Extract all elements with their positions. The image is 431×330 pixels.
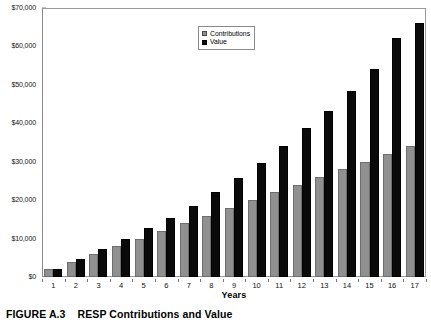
bar-value bbox=[144, 228, 153, 277]
bar-value bbox=[166, 218, 175, 277]
contributions-swatch-icon bbox=[202, 31, 207, 36]
bar-value bbox=[392, 38, 401, 277]
legend-item-contributions: Contributions bbox=[202, 30, 250, 38]
x-tick-label: 16 bbox=[388, 281, 396, 290]
figure-number: FIGURE A.3 bbox=[6, 308, 66, 320]
bar-group bbox=[383, 8, 401, 277]
bar-contributions bbox=[157, 231, 166, 277]
bar-value bbox=[257, 163, 266, 277]
x-tick-mark bbox=[155, 279, 156, 282]
x-tick-mark bbox=[268, 279, 269, 282]
x-tick-label: 15 bbox=[365, 281, 373, 290]
bar-group bbox=[67, 8, 85, 277]
x-tick-label: 1 bbox=[51, 281, 55, 290]
bar-group bbox=[157, 8, 175, 277]
x-tick-label: 6 bbox=[164, 281, 168, 290]
x-tick-label: 4 bbox=[119, 281, 123, 290]
x-tick-label: 10 bbox=[252, 281, 260, 290]
bar-contributions bbox=[360, 162, 369, 277]
x-tick-mark bbox=[403, 279, 404, 282]
y-axis: $0$10,000$20,000$30,000$40,000$50,000$60… bbox=[0, 0, 42, 285]
bar-value bbox=[76, 259, 85, 277]
bar-group bbox=[135, 8, 153, 277]
figure-caption: FIGURE A.3RESP Contributions and Value bbox=[6, 308, 232, 320]
x-tick-label: 2 bbox=[74, 281, 78, 290]
x-tick-label: 12 bbox=[298, 281, 306, 290]
y-tick-label: $20,000 bbox=[11, 196, 36, 204]
bar-contributions bbox=[293, 185, 302, 277]
x-tick-label: 13 bbox=[320, 281, 328, 290]
x-tick-mark bbox=[290, 279, 291, 282]
x-tick-mark bbox=[336, 279, 337, 282]
x-tick-label: 7 bbox=[187, 281, 191, 290]
x-tick-label: 14 bbox=[343, 281, 351, 290]
bar-contributions bbox=[44, 269, 53, 277]
legend-label-contributions: Contributions bbox=[210, 30, 250, 38]
y-tick-label: $0 bbox=[28, 273, 36, 281]
x-tick-label: 11 bbox=[275, 281, 283, 290]
legend-item-value: Value bbox=[202, 38, 250, 46]
x-tick-mark bbox=[178, 279, 179, 282]
bar-contributions bbox=[135, 239, 144, 277]
x-tick-mark bbox=[313, 279, 314, 282]
bar-contributions bbox=[270, 192, 279, 277]
y-tick-label: $70,000 bbox=[11, 4, 36, 12]
x-tick-label: 17 bbox=[411, 281, 419, 290]
bar-contributions bbox=[406, 146, 415, 277]
bar-contributions bbox=[180, 223, 189, 277]
y-tick-label: $40,000 bbox=[11, 119, 36, 127]
chart-legend: Contributions Value bbox=[198, 26, 255, 50]
bar-contributions bbox=[248, 200, 257, 277]
bar-group bbox=[89, 8, 107, 277]
bar-value bbox=[415, 23, 424, 277]
value-swatch-icon bbox=[202, 40, 207, 45]
x-tick-mark bbox=[42, 279, 43, 282]
bar-group bbox=[270, 8, 288, 277]
bar-contributions bbox=[225, 208, 234, 277]
bar-group bbox=[338, 8, 356, 277]
x-tick-mark bbox=[358, 279, 359, 282]
y-tick-label: $60,000 bbox=[11, 42, 36, 50]
bar-contributions bbox=[202, 216, 211, 277]
bar-value bbox=[234, 178, 243, 277]
bar-value bbox=[347, 91, 356, 277]
x-tick-mark bbox=[87, 279, 88, 282]
legend-label-value: Value bbox=[210, 38, 227, 46]
bar-value bbox=[98, 249, 107, 277]
y-tick-label: $50,000 bbox=[11, 81, 36, 89]
x-tick-mark bbox=[200, 279, 201, 282]
bar-contributions bbox=[89, 254, 98, 277]
bar-group bbox=[112, 8, 130, 277]
bar-contributions bbox=[67, 262, 76, 277]
y-tick-label: $30,000 bbox=[11, 158, 36, 166]
bar-value bbox=[211, 192, 220, 277]
x-tick-mark bbox=[110, 279, 111, 282]
x-tick-mark bbox=[223, 279, 224, 282]
bar-value bbox=[370, 69, 379, 277]
bar-group bbox=[180, 8, 198, 277]
bar-contributions bbox=[338, 169, 347, 277]
x-tick-label: 9 bbox=[232, 281, 236, 290]
x-tick-mark bbox=[65, 279, 66, 282]
bar-group bbox=[44, 8, 62, 277]
x-tick-label: 5 bbox=[142, 281, 146, 290]
x-tick-mark bbox=[245, 279, 246, 282]
bar-group bbox=[293, 8, 311, 277]
x-tick-label: 8 bbox=[209, 281, 213, 290]
y-tick-label: $10,000 bbox=[11, 235, 36, 243]
bar-value bbox=[53, 269, 62, 277]
bar-group bbox=[315, 8, 333, 277]
bar-contributions bbox=[315, 177, 324, 277]
x-axis-title: Years bbox=[42, 290, 426, 300]
x-tick-mark bbox=[132, 279, 133, 282]
x-tick-label: 3 bbox=[96, 281, 100, 290]
bar-group bbox=[360, 8, 378, 277]
bar-value bbox=[324, 111, 333, 277]
x-tick-mark bbox=[381, 279, 382, 282]
bar-value bbox=[279, 146, 288, 277]
bar-value bbox=[302, 128, 311, 277]
bar-group bbox=[406, 8, 424, 277]
bar-contributions bbox=[383, 154, 392, 277]
figure-title: RESP Contributions and Value bbox=[78, 308, 233, 320]
x-tick-mark bbox=[426, 279, 427, 282]
